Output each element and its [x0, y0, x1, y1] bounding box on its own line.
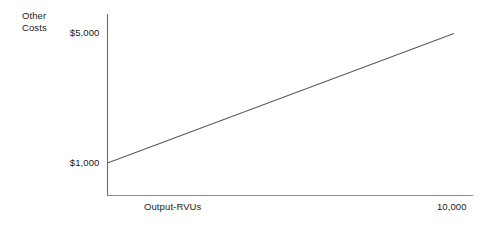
y-axis-title-line-2: Costs [22, 22, 47, 34]
x-axis-title: Output-RVUs [144, 201, 201, 213]
y-axis-tick-label-1000: $1,000 [66, 157, 100, 169]
y-axis-tick-label-5000: $5,000 [66, 27, 100, 39]
x-axis-tick-label-10000: 10,000 [437, 201, 467, 213]
y-axis-title-line-1: Other [22, 10, 47, 22]
data-series-line-other-costs [108, 33, 454, 163]
y-axis-title: Other Costs [22, 10, 47, 34]
chart-figure: Other Costs $5,000 $1,000 Output-RVUs 10… [0, 0, 495, 229]
